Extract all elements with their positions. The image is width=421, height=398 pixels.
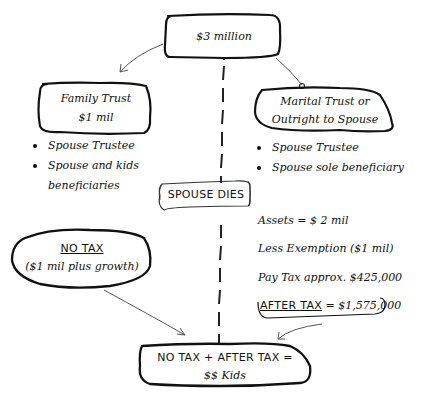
- spouse-dies-label: SPOUSE DIES: [162, 188, 250, 201]
- result-line2: $$ Kids: [140, 369, 310, 382]
- bullet-text: Spouse Trustee: [48, 139, 135, 152]
- after-tax-value: = $1,575,000: [322, 299, 401, 312]
- arrow-no-tax-to-result: [104, 290, 185, 335]
- exemption-line: Less Exemption ($1 mil): [258, 242, 394, 255]
- family-trust-title: Family Trust: [42, 92, 150, 105]
- marital-trust-title-line1: Marital Trust or: [258, 95, 392, 108]
- bullet-text: Spouse Trustee: [272, 141, 359, 154]
- root-label: $3 million: [168, 30, 280, 43]
- no-tax-detail: ($1 mil plus growth): [14, 260, 150, 273]
- tax-line: Pay Tax approx. $425,000: [258, 271, 402, 284]
- marital-trust-bullets: Spouse Trustee Spouse sole beneficiary: [254, 138, 404, 178]
- family-trust-amount: $1 mil: [42, 111, 150, 124]
- arrow-to-family-trust: [120, 44, 163, 72]
- marital-trust-bullet: Spouse sole beneficiary: [254, 158, 404, 178]
- bullet-text-continued: beneficiaries: [48, 176, 139, 196]
- result-line1: NO TAX + AFTER TAX =: [140, 351, 310, 364]
- arrow-after-tax-to-result: [278, 324, 322, 339]
- bullet-text: Spouse and kids: [48, 159, 139, 172]
- family-trust-bullet: Spouse and kids beneficiaries: [30, 156, 139, 196]
- bullet-text: Spouse sole beneficiary: [272, 161, 404, 174]
- after-tax-label: AFTER TAX: [260, 299, 322, 312]
- after-tax-line: AFTER TAX = $1,575,000: [260, 299, 401, 312]
- family-trust-bullets: Spouse Trustee Spouse and kids beneficia…: [30, 136, 139, 196]
- marital-trust-title-line2: Outright to Spouse: [258, 113, 392, 126]
- assets-line: Assets = $ 2 mil: [258, 214, 348, 227]
- family-trust-bullet: Spouse Trustee: [30, 136, 139, 156]
- family-trust-box: [39, 83, 151, 134]
- marital-trust-bullet: Spouse Trustee: [254, 138, 404, 158]
- no-tax-oval: [12, 230, 150, 288]
- no-tax-title: NO TAX: [14, 242, 150, 255]
- arrow-to-marital-trust: [276, 58, 302, 85]
